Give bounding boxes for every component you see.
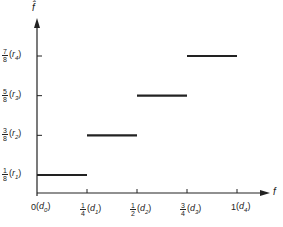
x-tick-label: 34(d3) bbox=[180, 202, 201, 217]
y-axis-label: f̂ bbox=[32, 3, 35, 13]
x-tick-label: 14(d1) bbox=[80, 202, 101, 217]
tick-marks bbox=[37, 56, 237, 193]
y-tick-label: 78(r4) bbox=[2, 48, 21, 63]
x-axis-label: f bbox=[273, 187, 276, 197]
x-tick-label: 0(d0) bbox=[31, 202, 50, 213]
x-tick-label: 12(d2) bbox=[130, 202, 151, 217]
chart-canvas bbox=[0, 0, 283, 227]
y-axis-arrow-icon bbox=[34, 18, 40, 28]
y-tick-label: 38(r2) bbox=[2, 127, 21, 142]
y-tick-label: 58(r3) bbox=[2, 88, 21, 103]
x-axis-arrow-icon bbox=[260, 190, 270, 196]
y-tick-label: 18(r1) bbox=[2, 167, 21, 182]
step-segments bbox=[37, 56, 237, 175]
x-tick-label: 1(d4) bbox=[231, 202, 250, 213]
